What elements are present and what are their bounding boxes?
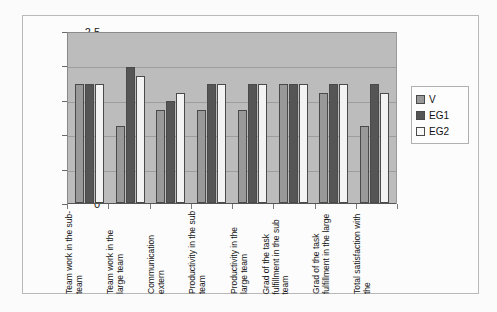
legend-item-v[interactable]: V xyxy=(416,91,464,107)
bar-v[interactable] xyxy=(360,126,369,203)
bar-eg2[interactable] xyxy=(258,84,267,203)
legend-item-label: V xyxy=(429,94,436,105)
legend-item-eg2[interactable]: EG2 xyxy=(416,123,464,139)
bar-group xyxy=(151,34,192,203)
bar-v[interactable] xyxy=(75,84,84,203)
bar-v[interactable] xyxy=(116,126,125,203)
category-label: Grad of the task fulfillment in the sub … xyxy=(261,210,290,294)
bar-eg2[interactable] xyxy=(339,84,348,203)
x-axis-tick-mark xyxy=(191,204,192,209)
bar-eg2[interactable] xyxy=(176,93,185,203)
bar-v[interactable] xyxy=(238,110,247,203)
plot-area-wrapper xyxy=(67,32,397,204)
category-label: Communication extern xyxy=(147,210,166,294)
bar-group xyxy=(191,34,232,203)
bar-eg2[interactable] xyxy=(380,93,389,203)
x-axis-category-labels: Team work in the sub-teamTeam work in th… xyxy=(67,210,397,294)
bar-v[interactable] xyxy=(156,110,165,203)
bar-eg1[interactable] xyxy=(370,84,379,203)
chart-frame: 00,511,522,5 Team work in the sub-teamTe… xyxy=(22,15,479,294)
bar-eg1[interactable] xyxy=(289,84,298,203)
bar-v[interactable] xyxy=(197,110,206,203)
category-label: Productivity in the large team xyxy=(230,210,249,294)
bar-group xyxy=(354,34,395,203)
legend-swatch-icon xyxy=(416,95,425,104)
x-axis-tick-mark xyxy=(150,204,151,209)
category-label: Grad of the task fulfillment in the larg… xyxy=(312,210,331,294)
bar-group xyxy=(314,34,355,203)
bar-series-container xyxy=(69,34,395,203)
legend-item-eg1[interactable]: EG1 xyxy=(416,107,464,123)
bar-eg2[interactable] xyxy=(95,84,104,203)
chart-legend: VEG1EG2 xyxy=(411,86,469,144)
bar-v[interactable] xyxy=(279,84,288,203)
bar-eg2[interactable] xyxy=(136,76,145,203)
category-label: Productivity in the sub team xyxy=(188,210,207,294)
bar-group xyxy=(232,34,273,203)
bar-eg2[interactable] xyxy=(299,84,308,203)
bar-eg1[interactable] xyxy=(207,84,216,203)
plot-area xyxy=(67,32,397,204)
x-axis-tick-mark xyxy=(356,204,357,209)
category-label: Team work in the large team xyxy=(106,210,125,294)
legend-swatch-icon xyxy=(416,111,425,120)
x-axis-tick-mark xyxy=(397,204,398,209)
bar-eg1[interactable] xyxy=(248,84,257,203)
bar-eg1[interactable] xyxy=(166,101,175,203)
bar-group xyxy=(110,34,151,203)
x-axis-tick-mark xyxy=(232,204,233,209)
bar-eg1[interactable] xyxy=(85,84,94,203)
bar-eg1[interactable] xyxy=(329,84,338,203)
x-axis-tick-mark xyxy=(108,204,109,209)
legend-item-label: EG1 xyxy=(429,110,449,121)
bar-v[interactable] xyxy=(319,93,328,203)
x-axis-tick-mark xyxy=(67,204,68,209)
x-axis-tick-mark xyxy=(315,204,316,209)
x-axis-tick-mark xyxy=(273,204,274,209)
bar-group xyxy=(69,34,110,203)
category-label: Total satisfaction with the xyxy=(353,210,372,294)
legend-swatch-icon xyxy=(416,127,425,136)
bar-eg2[interactable] xyxy=(217,84,226,203)
category-label: Team work in the sub-team xyxy=(65,210,84,294)
legend-item-label: EG2 xyxy=(429,126,449,137)
bar-group xyxy=(273,34,314,203)
bar-eg1[interactable] xyxy=(126,67,135,203)
